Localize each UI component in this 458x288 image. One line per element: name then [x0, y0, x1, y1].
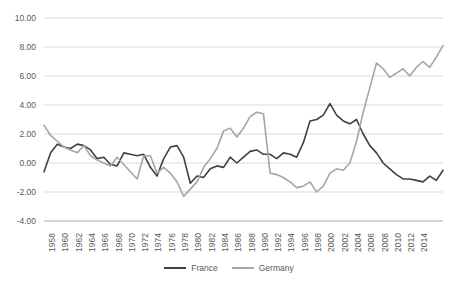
legend-entry-france[interactable]: France — [164, 264, 217, 273]
x-tick-label: 1992 — [274, 233, 283, 252]
y-tick-label: 4.00 — [2, 101, 36, 110]
legend-label: France — [191, 264, 217, 273]
series-group — [44, 46, 443, 197]
x-tick-label: 1964 — [88, 233, 97, 252]
series-line-france — [44, 104, 443, 184]
legend-label: Germany — [259, 264, 294, 273]
x-tick-label: 1976 — [168, 233, 177, 252]
x-tick-label: 1980 — [194, 233, 203, 252]
x-tick-label: 1972 — [141, 233, 150, 252]
x-tick-label: 1982 — [208, 233, 217, 252]
series-line-germany — [44, 46, 443, 197]
x-tick-label: 2006 — [367, 233, 376, 252]
y-tick-label: -2.00 — [2, 188, 36, 197]
legend-swatch-france — [164, 267, 186, 269]
chart-legend: FranceGermany — [0, 264, 458, 273]
x-tick-label: 1988 — [248, 233, 257, 252]
x-tick-label: 1958 — [48, 233, 57, 252]
x-tick-label: 1986 — [234, 233, 243, 252]
y-tick-label: 8.00 — [2, 43, 36, 52]
x-tick-label: 1990 — [261, 233, 270, 252]
x-tick-label: 2002 — [341, 233, 350, 252]
x-tick-label: 2000 — [327, 233, 336, 252]
x-tick-label: 1960 — [61, 233, 70, 252]
x-tick-label: 1962 — [75, 233, 84, 252]
y-tick-label: 10.00 — [2, 14, 36, 23]
x-tick-label: 2014 — [420, 233, 429, 252]
y-tick-label: -4.00 — [2, 217, 36, 226]
y-tick-label: 2.00 — [2, 130, 36, 139]
x-tick-label: 2010 — [394, 233, 403, 252]
x-tick-label: 1994 — [287, 233, 296, 252]
x-tick-label: 1978 — [181, 233, 190, 252]
x-tick-label: 1974 — [154, 233, 163, 252]
x-tick-label: 1966 — [101, 233, 110, 252]
legend-swatch-germany — [232, 267, 254, 269]
chart-container: 10.008.006.004.002.000.00-2.00-4.00 1958… — [0, 0, 458, 288]
x-tick-label: 2004 — [354, 233, 363, 252]
x-tick-label: 1970 — [128, 233, 137, 252]
x-tick-label: 1968 — [115, 233, 124, 252]
legend-entry-germany[interactable]: Germany — [232, 264, 294, 273]
x-tick-label: 1984 — [221, 233, 230, 252]
x-tick-label: 1998 — [314, 233, 323, 252]
x-tick-label: 1996 — [301, 233, 310, 252]
gridline-group — [44, 18, 443, 221]
y-tick-label: 6.00 — [2, 72, 36, 81]
x-tick-label: 2012 — [407, 233, 416, 252]
y-tick-label: 0.00 — [2, 159, 36, 168]
x-tick-label: 2008 — [381, 233, 390, 252]
